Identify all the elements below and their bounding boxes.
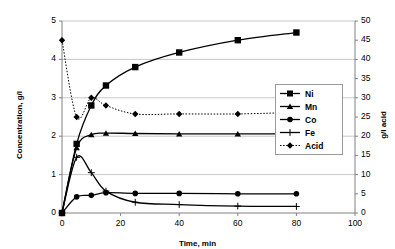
legend-item-co[interactable]: Co — [279, 113, 338, 126]
legend-label-co: Co — [305, 115, 316, 125]
legend-marker-triangle-icon — [279, 101, 301, 112]
data-point-square — [132, 64, 138, 70]
legend-label-mn: Mn — [305, 102, 317, 112]
data-point-diamond — [132, 111, 138, 117]
data-point-plus — [132, 199, 139, 206]
legend-label-ni: Ni — [305, 89, 314, 99]
legend-item-fe[interactable]: Fe — [279, 126, 338, 139]
data-point-diamond — [235, 111, 241, 117]
data-point-diamond — [59, 37, 65, 43]
legend-item-ni[interactable]: Ni — [279, 87, 338, 100]
legend-marker-diamond-icon — [279, 140, 301, 151]
legend-marker-plus-icon — [279, 127, 301, 138]
data-point-plus — [176, 201, 183, 208]
data-point-plus — [293, 203, 300, 210]
data-point-plus — [234, 203, 241, 210]
data-point-circle — [287, 117, 293, 123]
series-ni — [59, 29, 300, 216]
data-point-plus — [287, 129, 294, 136]
data-point-square — [176, 49, 182, 55]
data-point-circle — [235, 191, 241, 197]
legend-label-fe: Fe — [305, 128, 315, 138]
chart-legend: NiMnCoFeAcid — [275, 84, 343, 155]
legend-item-acid[interactable]: Acid — [279, 139, 338, 152]
data-point-diamond — [287, 142, 293, 148]
legend-item-mn[interactable]: Mn — [279, 100, 338, 113]
data-point-circle — [89, 193, 95, 199]
data-point-circle — [176, 191, 182, 197]
legend-label-acid: Acid — [305, 141, 323, 151]
data-point-square — [103, 82, 109, 88]
data-point-circle — [132, 191, 138, 197]
data-point-circle — [294, 191, 300, 197]
data-point-square — [88, 102, 94, 108]
data-point-square — [293, 29, 299, 35]
series-fe — [59, 154, 300, 216]
chart-container: Concentration, g/l g/l acid Time, min 01… — [0, 0, 395, 249]
data-point-square — [235, 37, 241, 43]
data-point-diamond — [103, 102, 109, 108]
legend-marker-circle-icon — [279, 114, 301, 125]
data-point-diamond — [176, 111, 182, 117]
data-point-square — [287, 91, 293, 97]
legend-marker-square-icon — [279, 88, 301, 99]
data-point-circle — [74, 194, 80, 200]
